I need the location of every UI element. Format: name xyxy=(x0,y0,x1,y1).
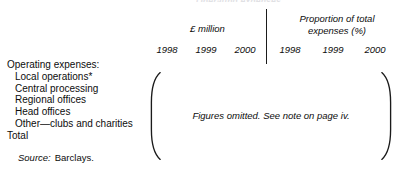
year-header-proportion-2000: 2000 xyxy=(355,44,395,55)
column-group-header-money: £ million xyxy=(155,23,260,34)
row-label-column: Operating expenses: Local operations* Ce… xyxy=(7,59,133,142)
year-header-money-1998: 1998 xyxy=(147,44,187,55)
year-header-proportion-1999: 1999 xyxy=(313,44,353,55)
table-row-label: Operating expenses: xyxy=(7,59,133,71)
cropped-heading-remnant: Operating expenses xyxy=(196,0,386,2)
source-label: Source: xyxy=(18,152,51,163)
year-header-money-2000: 2000 xyxy=(225,44,265,55)
year-header-money-1999: 1999 xyxy=(186,44,226,55)
source-note: Source:Barclays. xyxy=(18,152,94,163)
table-row-label: Head offices xyxy=(7,106,133,118)
source-value: Barclays. xyxy=(55,152,94,163)
column-group-header-proportion-line2: expenses (%) xyxy=(274,25,400,37)
year-header-proportion-1998: 1998 xyxy=(270,44,310,55)
column-group-header-proportion-line1: Proportion of total xyxy=(274,13,400,25)
table-row-label: Local operations* xyxy=(7,71,133,83)
column-group-divider xyxy=(266,9,267,64)
omitted-figures-note: Figures omitted. See note on page iv. xyxy=(160,110,382,121)
table-row-label: Total xyxy=(7,130,133,142)
column-group-header-proportion: Proportion of total expenses (%) xyxy=(274,13,400,36)
table-row-label: Other—clubs and charities xyxy=(7,118,133,130)
table-row-label: Regional offices xyxy=(7,94,133,106)
table-row-label: Central processing xyxy=(7,83,133,95)
right-brace-icon xyxy=(380,71,394,165)
